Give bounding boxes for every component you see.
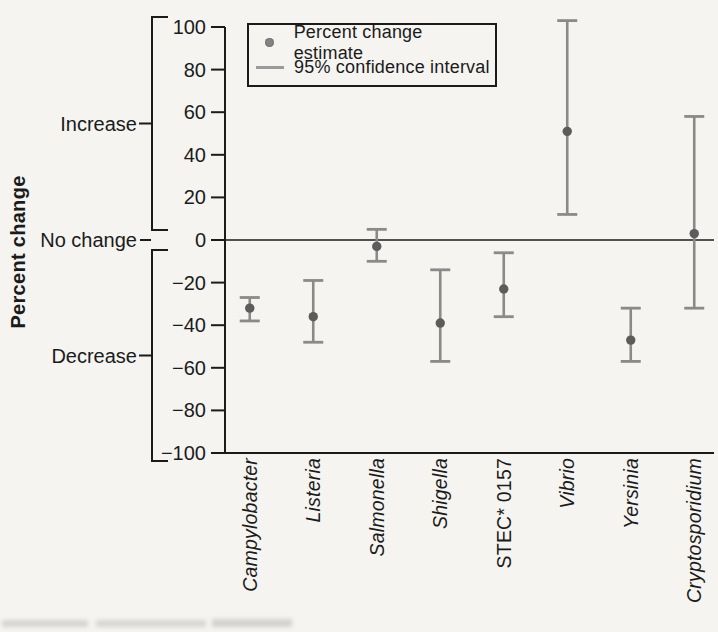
y-tick-label: −80: [172, 399, 206, 421]
caption-smudge: [96, 620, 206, 627]
legend-marker-wrap: [255, 66, 285, 69]
legend-marker-wrap: [255, 38, 285, 47]
y-tick-label: −20: [172, 272, 206, 294]
category-label: Yersinia: [620, 458, 642, 529]
category-label: STEC* 0157: [493, 458, 515, 568]
y-tick-label: 60: [184, 101, 206, 123]
category-label: Shigella: [429, 458, 451, 529]
estimate-point: [309, 312, 318, 321]
estimate-point: [372, 242, 381, 251]
figure-canvas: 100806040200−20−40−60−80−100Campylobacte…: [0, 0, 718, 632]
category-label: Cryptosporidium: [683, 458, 705, 603]
cropped-caption-fragment: [2, 619, 292, 627]
legend: Percent change estimate 95% confidence i…: [247, 23, 497, 87]
category-label: Campylobacter: [239, 457, 261, 592]
y-tick-label: 40: [184, 144, 206, 166]
y-tick-label: −60: [172, 357, 206, 379]
y-tick-label: 80: [184, 59, 206, 81]
increase-bracket: [152, 17, 168, 230]
ci-line-icon: [256, 66, 284, 69]
legend-item-confidence-interval: 95% confidence interval: [255, 55, 495, 80]
zone-label-decrease: Decrease: [0, 344, 137, 368]
estimate-point: [563, 127, 572, 136]
y-tick-label: 100: [173, 16, 206, 38]
estimate-point: [690, 229, 699, 238]
zone-label-increase: Increase: [0, 112, 137, 136]
category-label: Vibrio: [556, 458, 578, 509]
estimate-point: [245, 303, 254, 312]
category-label: Salmonella: [366, 458, 388, 556]
chart-plot-area: 100806040200−20−40−60−80−100Campylobacte…: [0, 0, 718, 632]
legend-item-estimate: Percent change estimate: [255, 30, 495, 55]
estimate-point: [436, 318, 445, 327]
decrease-bracket: [152, 250, 168, 461]
caption-smudge: [2, 620, 88, 627]
legend-label-confidence-interval: 95% confidence interval: [294, 57, 490, 78]
zone-label-no-change: No change: [0, 228, 137, 252]
estimate-point: [626, 335, 635, 344]
y-tick-label: −40: [172, 314, 206, 336]
category-label: Listeria: [302, 458, 324, 522]
estimate-point: [499, 284, 508, 293]
y-tick-label: 0: [195, 229, 206, 251]
caption-smudge: [212, 619, 292, 627]
estimate-dot-icon: [265, 38, 274, 47]
y-tick-label: 20: [184, 186, 206, 208]
